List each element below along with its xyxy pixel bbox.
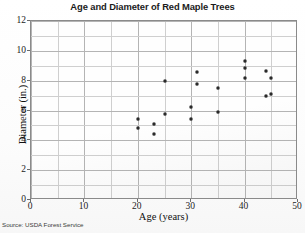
chart-figure: Age and Diameter of Red Maple Trees 0102…	[0, 0, 305, 233]
gridline-horizontal	[31, 66, 296, 67]
gridline-horizontal	[31, 155, 296, 156]
data-point	[152, 132, 155, 135]
gridline-vertical	[84, 21, 85, 198]
data-point	[297, 36, 298, 39]
data-point	[136, 126, 139, 129]
gridline-horizontal	[31, 96, 296, 97]
chart-title: Age and Diameter of Red Maple Trees	[0, 1, 305, 12]
data-point	[264, 69, 267, 72]
gridline-horizontal	[31, 36, 296, 37]
data-point	[270, 76, 273, 79]
data-point	[243, 60, 246, 63]
gridline-horizontal	[31, 51, 296, 52]
data-point	[190, 105, 193, 108]
plot-area	[30, 20, 297, 199]
x-axis-tick-label: 20	[132, 201, 142, 211]
y-axis-tick	[27, 50, 30, 51]
data-point	[270, 93, 273, 96]
y-axis-tick-label: 12	[17, 15, 27, 25]
x-axis-tick-label: 30	[185, 201, 195, 211]
y-axis-tick-label: 0	[21, 194, 26, 204]
y-axis-tick	[27, 20, 30, 21]
y-axis-tick	[27, 199, 30, 200]
x-axis-tick-label: 10	[79, 201, 89, 211]
x-axis-tick-label: 50	[292, 201, 302, 211]
data-point	[297, 113, 298, 116]
gridline-vertical	[191, 21, 192, 198]
data-point	[190, 118, 193, 121]
gridline-vertical	[218, 21, 219, 198]
data-point	[195, 82, 198, 85]
data-point	[243, 76, 246, 79]
gridline-horizontal	[31, 125, 296, 126]
gridline-vertical	[111, 21, 112, 198]
data-point	[136, 117, 139, 120]
y-axis-tick-label: 10	[17, 45, 27, 55]
data-point	[163, 79, 166, 82]
gridline-vertical	[271, 21, 272, 198]
gridline-horizontal	[31, 21, 296, 22]
data-point	[163, 113, 166, 116]
x-axis-tick-label: 0	[28, 201, 33, 211]
data-point	[216, 110, 219, 113]
gridline-vertical	[58, 21, 59, 198]
data-point	[243, 66, 246, 69]
gridline-horizontal	[31, 170, 296, 171]
plot-background-shading	[31, 21, 296, 198]
data-point	[195, 71, 198, 74]
gridline-horizontal	[31, 185, 296, 186]
y-axis-label: Diameter (in.)	[17, 55, 28, 175]
data-point	[264, 94, 267, 97]
gridline-vertical	[138, 21, 139, 198]
x-axis-tick-label: 40	[239, 201, 249, 211]
gridline-vertical	[165, 21, 166, 198]
gridline-horizontal	[31, 140, 296, 141]
data-point	[216, 87, 219, 90]
gridline-vertical	[31, 21, 32, 198]
source-note: Source: USDA Forest Service	[2, 221, 84, 228]
gridline-vertical	[245, 21, 246, 198]
data-point	[152, 122, 155, 125]
